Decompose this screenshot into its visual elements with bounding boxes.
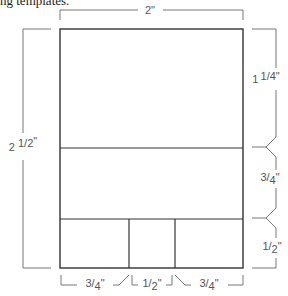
height-label: 21/2" xyxy=(9,135,37,153)
bottom-dimension: 3/4" 1/2" 3/4" xyxy=(61,275,243,292)
right-segment-2-label: 3/4" xyxy=(260,171,279,186)
width-label: 2" xyxy=(145,4,155,16)
bottom-segment-1-label: 3/4" xyxy=(85,277,104,292)
right-segment-1-label: 11/4" xyxy=(252,70,280,85)
template-diagram: 2" 21/2" 11/4" 3/4" 1/2" xyxy=(0,0,288,296)
bottom-segment-3-label: 3/4" xyxy=(199,277,218,292)
right-dimension: 11/4" 3/4" 1/2" xyxy=(252,29,282,268)
width-dimension: 2" xyxy=(60,4,243,20)
bottom-segment-2-label: 1/2" xyxy=(142,277,161,292)
height-dimension: 21/2" xyxy=(9,29,51,268)
right-segment-3-label: 1/2" xyxy=(262,240,281,255)
